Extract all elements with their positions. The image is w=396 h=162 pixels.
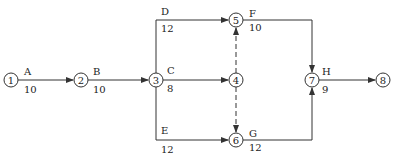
activity-a-name: A xyxy=(23,66,32,77)
activity-d-name: D xyxy=(161,6,169,17)
node-2: 2 xyxy=(74,73,88,87)
activity-f: F 10 xyxy=(243,8,312,72)
node-8: 8 xyxy=(376,73,390,87)
node-3: 3 xyxy=(149,73,163,87)
node-1: 1 xyxy=(4,73,18,87)
activity-g-name: G xyxy=(249,128,257,139)
activity-f-duration: 10 xyxy=(249,22,262,33)
node-3-label: 3 xyxy=(153,75,159,86)
node-4-label: 4 xyxy=(233,75,239,86)
activity-f-name: F xyxy=(249,8,256,19)
activity-b-name: B xyxy=(93,66,100,77)
activity-b: B 10 xyxy=(88,66,148,95)
network-diagram: A 10 B 10 C 8 D 12 E 12 F 10 G 12 H xyxy=(0,0,396,162)
node-7-label: 7 xyxy=(309,75,315,86)
node-8-label: 8 xyxy=(380,75,386,86)
activity-g-duration: 12 xyxy=(249,142,262,153)
activity-c-name: C xyxy=(167,65,175,76)
activity-d-duration: 12 xyxy=(161,23,174,34)
activity-c-duration: 8 xyxy=(167,83,173,94)
activity-b-duration: 10 xyxy=(93,84,106,95)
activity-a: A 10 xyxy=(18,66,73,95)
activity-g: G 12 xyxy=(243,88,312,153)
node-2-label: 2 xyxy=(78,75,84,86)
node-5-label: 5 xyxy=(233,15,239,26)
activity-h-duration: 9 xyxy=(322,84,328,95)
node-5: 5 xyxy=(229,13,243,27)
activity-c: C 8 xyxy=(163,65,228,94)
node-4: 4 xyxy=(229,73,243,87)
activity-e-duration: 12 xyxy=(161,144,174,155)
activity-h-name: H xyxy=(322,66,331,77)
node-6: 6 xyxy=(229,133,243,147)
node-1-label: 1 xyxy=(8,75,14,86)
activity-e: E 12 xyxy=(156,87,228,155)
node-7: 7 xyxy=(305,73,319,87)
activity-h: H 9 xyxy=(319,66,375,95)
activity-a-duration: 10 xyxy=(24,84,37,95)
node-6-label: 6 xyxy=(233,135,239,146)
activity-e-name: E xyxy=(161,125,168,136)
activity-d: D 12 xyxy=(156,6,228,73)
